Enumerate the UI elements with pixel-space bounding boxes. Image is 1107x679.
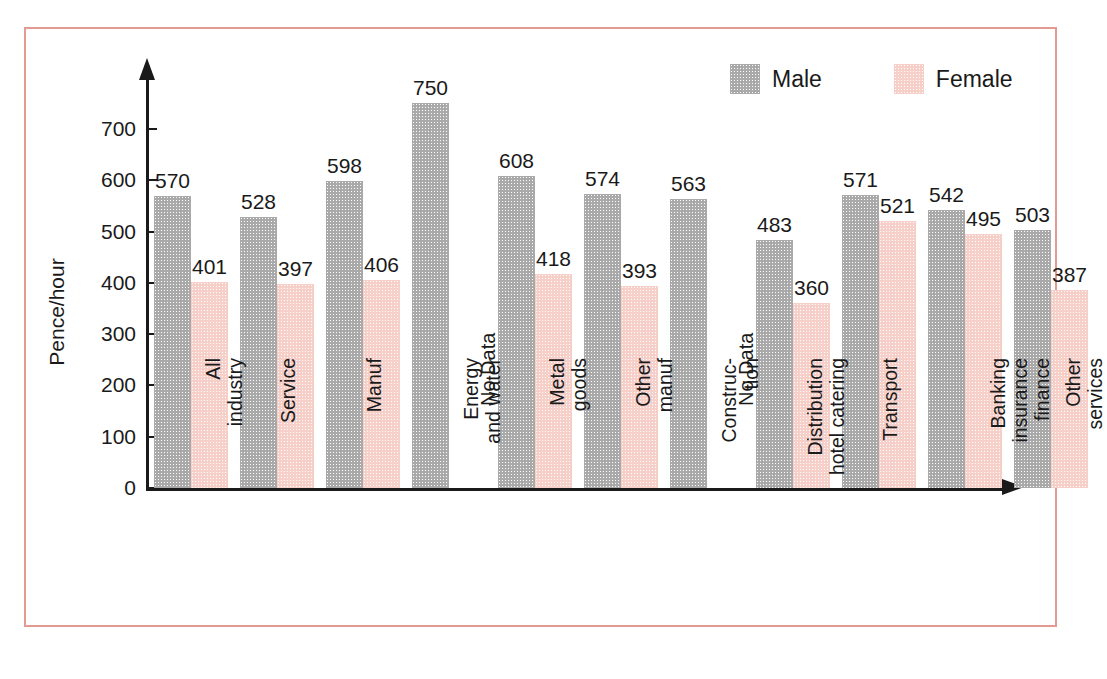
bar-value-label: 570 — [146, 170, 199, 191]
x-axis-label-line: tion — [741, 358, 763, 498]
y-axis-tick-label-wrap: 500 — [72, 232, 136, 233]
bar-value-label: 401 — [183, 256, 236, 277]
y-axis-tick-label-wrap: 200 — [72, 385, 136, 386]
x-axis-label-line: manuf — [655, 358, 677, 498]
y-axis-tick-label-wrap: 400 — [72, 283, 136, 284]
bar-value-label: 542 — [920, 184, 973, 205]
legend-item-female[interactable]: Female — [894, 64, 1013, 94]
bar-value-label: 571 — [834, 169, 887, 190]
bar-value-label: 521 — [871, 195, 924, 216]
bar-value-label: 397 — [269, 258, 322, 279]
legend-swatch-male — [730, 64, 760, 94]
bar-value-label: 574 — [576, 168, 629, 189]
y-axis-tick-label: 400 — [76, 272, 136, 293]
bar-value-label: 598 — [318, 155, 371, 176]
bar-value-label: 418 — [527, 248, 580, 269]
x-axis-label-line: Distribution — [805, 358, 827, 498]
x-axis-label-line: hotel catering — [827, 358, 849, 498]
y-axis-arrow-icon — [139, 58, 155, 80]
x-axis-label-line: goods — [569, 358, 591, 498]
legend-item-male[interactable]: Male — [730, 64, 822, 94]
y-axis-tick-label: 500 — [76, 221, 136, 242]
y-axis-tick-label: 700 — [76, 118, 136, 139]
x-axis-label-line: Transport — [880, 358, 902, 498]
x-axis-label-line: Metal — [547, 358, 569, 498]
bar-value-label: 503 — [1006, 204, 1059, 225]
x-axis-label-line: Construc- — [719, 358, 741, 498]
x-axis-category-label: Bankinginsurancefinance — [988, 358, 1053, 498]
x-axis-category-label: Allindustry — [203, 358, 247, 498]
x-axis-label-line: services — [1085, 358, 1107, 498]
bar-male[interactable] — [326, 181, 363, 488]
legend-label: Female — [936, 68, 1013, 91]
bar-value-label: 563 — [662, 173, 715, 194]
x-axis-category-label: Transport — [880, 358, 902, 498]
x-axis-label-line: Banking — [988, 358, 1010, 498]
x-axis-label-line: All — [203, 358, 225, 498]
x-axis-category-label: Distributionhotel catering — [805, 358, 849, 498]
bar-value-label: 528 — [232, 191, 285, 212]
bar-value-label: 406 — [355, 254, 408, 275]
bar-male[interactable] — [928, 210, 965, 488]
legend: MaleFemale — [730, 62, 1013, 96]
y-axis-tick-label-wrap: 0 — [72, 488, 136, 489]
bar-value-label: 393 — [613, 260, 666, 281]
y-axis-tick-label-wrap: 100 — [72, 437, 136, 438]
x-axis-label-line: Energy — [461, 358, 483, 498]
y-axis-tick-label-wrap: 700 — [72, 129, 136, 130]
y-axis-tick-label: 600 — [76, 169, 136, 190]
x-axis-category-label: Othermanuf — [633, 358, 677, 498]
bar-value-label: 495 — [957, 208, 1010, 229]
y-axis-tick-label: 200 — [76, 374, 136, 395]
x-axis-category-label: Metalgoods — [547, 358, 591, 498]
legend-swatch-female — [894, 64, 924, 94]
y-axis-tick-label: 300 — [76, 323, 136, 344]
y-axis-tick-label-wrap: 600 — [72, 180, 136, 181]
y-axis-tick-label: 100 — [76, 426, 136, 447]
x-axis-category-labels: AllindustryServiceManufEnergyand waterMe… — [148, 496, 1004, 646]
x-axis-label-line: and water — [483, 358, 505, 498]
bar-value-label: 608 — [490, 150, 543, 171]
y-axis-tick-label: 0 — [76, 477, 136, 498]
bar-value-label: 387 — [1043, 264, 1096, 285]
bar-male[interactable] — [154, 196, 191, 488]
x-axis-category-label: Manuf — [364, 358, 386, 498]
x-axis-label-line: insurance — [1010, 358, 1032, 498]
x-axis-label-line: industry — [225, 358, 247, 498]
bar-male[interactable] — [412, 103, 449, 488]
y-axis-title: Pence/hour — [45, 227, 69, 397]
x-axis-label-line: finance — [1032, 358, 1054, 498]
x-axis-label-line: Manuf — [364, 358, 386, 498]
bar-value-label: 483 — [748, 214, 801, 235]
x-axis-category-label: Service — [278, 358, 300, 498]
x-axis-label-line: Service — [278, 358, 300, 498]
x-axis-label-line: Other — [633, 358, 655, 498]
y-axis-tick-label-wrap: 300 — [72, 334, 136, 335]
bar-value-label: 750 — [404, 77, 457, 98]
x-axis-category-label: Energyand water — [461, 358, 505, 498]
x-axis-label-line: Other — [1063, 358, 1085, 498]
x-axis-category-label: Construc-tion — [719, 358, 763, 498]
x-axis-category-label: Otherservices — [1063, 358, 1107, 498]
bar-value-label: 360 — [785, 277, 838, 298]
legend-label: Male — [772, 68, 822, 91]
